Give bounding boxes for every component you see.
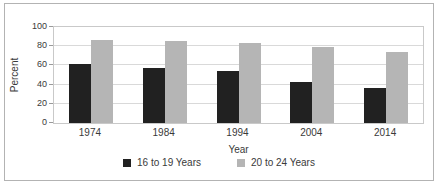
y-tick-label: 80: [5, 40, 47, 50]
legend-item: 16 to 19 Years: [123, 157, 201, 168]
plot-area: [53, 26, 424, 124]
legend-label: 20 to 24 Years: [251, 157, 315, 168]
y-tick-label: 0: [5, 117, 47, 127]
x-tick-label: 2014: [348, 127, 422, 138]
x-tick-label: 1974: [53, 127, 127, 138]
bar: [290, 82, 312, 123]
y-tick-label: 100: [5, 21, 47, 31]
y-tick-mark: [49, 103, 53, 104]
x-tick-label: 1994: [201, 127, 275, 138]
y-tick-mark: [49, 64, 53, 65]
bar: [91, 40, 113, 123]
legend-label: 16 to 19 Years: [137, 157, 201, 168]
x-axis-title: Year: [53, 144, 424, 155]
y-tick-mark: [49, 26, 53, 27]
x-tick-label: 2004: [274, 127, 348, 138]
y-tick-mark: [49, 84, 53, 85]
chart-frame: Percent Year 16 to 19 Years20 to 24 Year…: [4, 3, 434, 181]
y-tick-label: 20: [5, 98, 47, 108]
legend-item: 20 to 24 Years: [237, 157, 315, 168]
legend: 16 to 19 Years20 to 24 Years: [5, 157, 433, 168]
bar: [386, 52, 408, 123]
y-tick-label: 60: [5, 59, 47, 69]
bar: [217, 71, 239, 123]
legend-swatch: [123, 159, 131, 167]
bar: [143, 68, 165, 123]
y-tick-label: 40: [5, 79, 47, 89]
x-tick-label: 1984: [127, 127, 201, 138]
y-tick-mark: [49, 45, 53, 46]
bar: [364, 88, 386, 123]
y-tick-mark: [49, 122, 53, 123]
bar: [239, 43, 261, 123]
bar: [312, 47, 334, 123]
bar: [69, 64, 91, 123]
legend-swatch: [237, 159, 245, 167]
bar: [165, 41, 187, 123]
